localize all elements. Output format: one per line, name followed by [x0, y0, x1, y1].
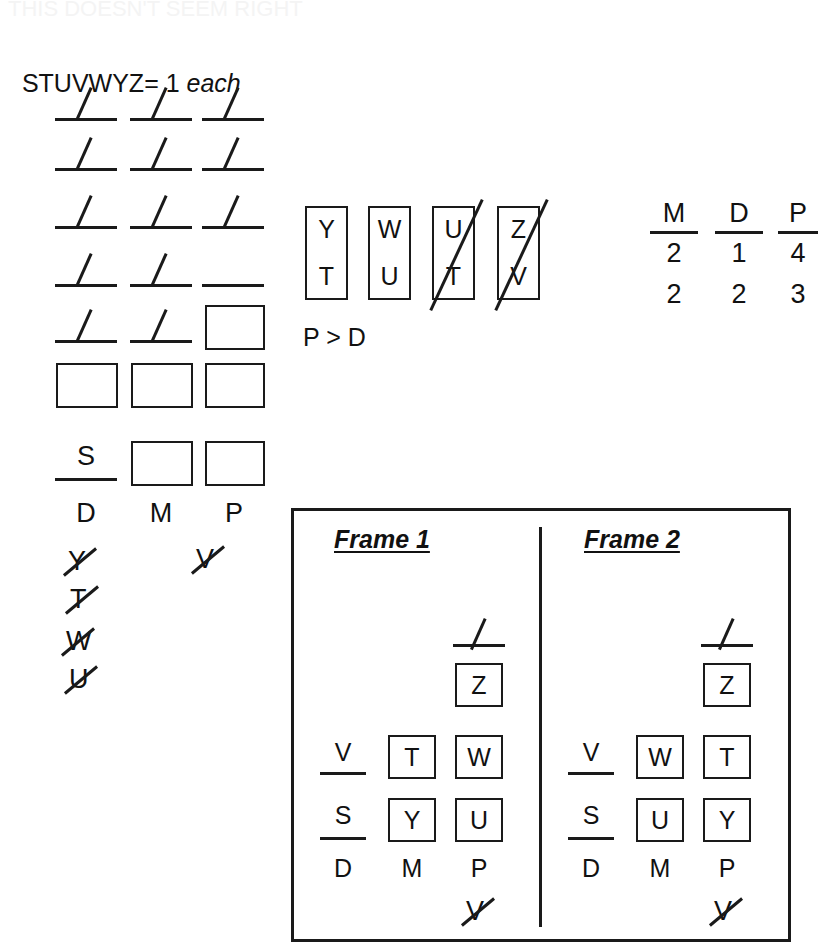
- left-grid-blank-r4c2[interactable]: [130, 284, 192, 287]
- left-grid-box-r6c3[interactable]: [205, 363, 265, 408]
- left-grid-box-r7c3[interactable]: [205, 441, 265, 486]
- count-label-p: P: [778, 200, 818, 227]
- frame-1-cell-r2-d-blank[interactable]: [320, 772, 366, 775]
- frame-1-col-label-m: M: [388, 856, 436, 881]
- count-column-d: D 1 2: [715, 200, 763, 308]
- left-grid-blank-r4c1[interactable]: [55, 284, 117, 287]
- frame-2-p-top-blank[interactable]: [701, 644, 753, 647]
- frame-2-cell-r2-p[interactable]: T: [703, 735, 751, 779]
- left-grid: S D M P Y T W U V: [0, 0, 270, 540]
- pair-box-4-top: Z: [511, 217, 526, 242]
- eliminated-letter-d-3: W: [66, 628, 91, 655]
- frame-1-cell-r3-d-blank[interactable]: [320, 837, 366, 840]
- left-grid-blank-r1c3[interactable]: [202, 118, 264, 121]
- pair-box-1[interactable]: Y T: [305, 206, 348, 300]
- constraint-note: P > D: [303, 325, 413, 350]
- pair-box-1-bottom: T: [319, 264, 334, 289]
- eliminated-letter-d-4: U: [69, 666, 89, 693]
- frame-2-cell-r3-d-value: S: [568, 803, 614, 828]
- frame-1-eliminated-under-p: V: [466, 898, 484, 925]
- count-value-p-2: 3: [778, 281, 818, 308]
- left-grid-answer-r7c1: S: [66, 443, 106, 470]
- frame-1-cell-r3-d-value: S: [320, 803, 366, 828]
- frame-2-col-label-p: P: [703, 856, 751, 881]
- frame-1-p-top-blank[interactable]: [453, 644, 505, 647]
- frame-1: Frame 1 Z V T W S Y U D M P V: [294, 511, 539, 945]
- frame-1-col-label-d: D: [320, 856, 366, 881]
- left-grid-blank-r2c2[interactable]: [130, 168, 192, 171]
- left-grid-col-label-d: D: [66, 500, 106, 527]
- eliminated-letter-d-2: T: [70, 586, 87, 613]
- left-grid-blank-r2c3[interactable]: [202, 168, 264, 171]
- left-grid-col-label-m: M: [141, 500, 181, 527]
- left-grid-box-r5c3[interactable]: [205, 305, 265, 350]
- left-grid-blank-r4c3[interactable]: [202, 284, 264, 287]
- frame-1-cell-r2-d-value: V: [320, 740, 366, 765]
- pair-box-3[interactable]: U T: [432, 206, 475, 300]
- frame-2-cell-r3-m[interactable]: U: [636, 798, 684, 842]
- frame-1-col-label-p: P: [455, 856, 503, 881]
- pair-box-3-top: U: [444, 217, 462, 242]
- frame-2-eliminated-under-p: V: [714, 898, 732, 925]
- count-rule-m: [650, 231, 698, 234]
- left-grid-col-label-p: P: [214, 500, 254, 527]
- frame-2-cell-r2-m[interactable]: W: [636, 735, 684, 779]
- frame-2-cell-r2-d-value: V: [568, 740, 614, 765]
- frame-1-cell-r3-m[interactable]: Y: [388, 798, 436, 842]
- frame-2: Frame 2 Z V W T S U Y D M P V: [542, 511, 788, 945]
- count-value-m-2: 2: [650, 281, 698, 308]
- left-grid-blank-r5c2[interactable]: [130, 340, 192, 343]
- frame-1-cell-r1-p[interactable]: Z: [455, 663, 503, 707]
- frame-2-cell-r3-p[interactable]: Y: [703, 798, 751, 842]
- left-grid-blank-r3c1[interactable]: [55, 226, 117, 229]
- pair-box-4[interactable]: Z V: [497, 206, 540, 300]
- frame-1-cell-r2-m[interactable]: T: [388, 735, 436, 779]
- frame-2-cell-r3-d-blank[interactable]: [568, 837, 614, 840]
- pair-box-2-top: W: [378, 217, 402, 242]
- frame-2-cell-r1-p[interactable]: Z: [703, 663, 751, 707]
- count-value-d-2: 2: [715, 281, 763, 308]
- count-value-p-1: 4: [778, 240, 818, 267]
- left-grid-box-r6c2[interactable]: [131, 363, 193, 408]
- left-grid-blank-r1c2[interactable]: [130, 118, 192, 121]
- pair-box-1-top: Y: [318, 217, 335, 242]
- left-grid-box-r6c1[interactable]: [56, 363, 118, 408]
- count-value-m-1: 2: [650, 240, 698, 267]
- frame-2-cell-r2-d-blank[interactable]: [568, 772, 614, 775]
- left-grid-blank-r3c3[interactable]: [202, 226, 264, 229]
- left-grid-blank-r1c1[interactable]: [55, 118, 117, 121]
- count-rule-p: [778, 231, 818, 234]
- eliminated-letter-p-1: V: [196, 546, 214, 573]
- left-grid-blank-r3c2[interactable]: [130, 226, 192, 229]
- frame-2-col-label-m: M: [636, 856, 684, 881]
- count-rule-d: [715, 231, 763, 234]
- count-label-d: D: [715, 200, 763, 227]
- pair-box-2-bottom: U: [380, 264, 398, 289]
- frame-2-col-label-d: D: [568, 856, 614, 881]
- frame-1-cell-r2-p[interactable]: W: [455, 735, 503, 779]
- frame-2-title: Frame 2: [584, 525, 680, 554]
- frame-1-title: Frame 1: [334, 525, 430, 554]
- frames-panel: Frame 1 Z V T W S Y U D M P V Frame 2 Z …: [291, 508, 791, 942]
- count-column-m: M 2 2: [650, 200, 698, 308]
- pair-box-2[interactable]: W U: [368, 206, 411, 300]
- left-grid-blank-r7c1[interactable]: [55, 478, 117, 481]
- count-value-d-1: 1: [715, 240, 763, 267]
- count-label-m: M: [650, 200, 698, 227]
- frame-1-cell-r3-p[interactable]: U: [455, 798, 503, 842]
- left-grid-blank-r2c1[interactable]: [55, 168, 117, 171]
- left-grid-box-r7c2[interactable]: [131, 441, 193, 486]
- left-grid-blank-r5c1[interactable]: [55, 340, 117, 343]
- eliminated-letter-d-1: Y: [68, 548, 86, 575]
- count-column-p: P 4 3: [778, 200, 818, 308]
